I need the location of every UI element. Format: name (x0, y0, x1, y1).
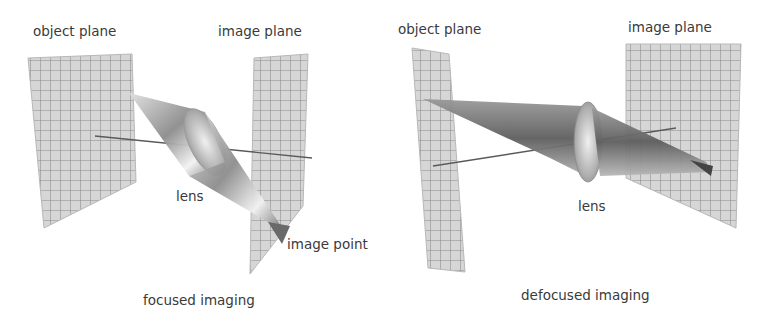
object-plane-label: object plane (33, 23, 116, 39)
optics-diagram: object plane image plane lens image poin… (0, 0, 762, 324)
image-plane-label: image plane (218, 23, 302, 39)
image-point-label: image point (287, 236, 368, 252)
object-plane-shape (412, 48, 465, 272)
focused-caption: focused imaging (143, 292, 255, 308)
image-plane-label: image plane (628, 19, 712, 35)
focused-panel-graphics (28, 54, 312, 274)
object-plane-shape (28, 54, 136, 228)
lens-label: lens (176, 188, 204, 204)
defocused-caption: defocused imaging (521, 287, 650, 303)
defocused-panel-graphics (412, 44, 741, 272)
lens-label: lens (578, 198, 606, 214)
diagram-graphics (0, 0, 762, 324)
object-plane-label: object plane (398, 21, 481, 37)
